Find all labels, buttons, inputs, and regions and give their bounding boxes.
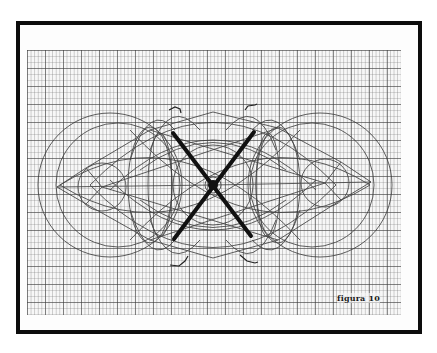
- figure-caption: figura 10: [337, 293, 380, 303]
- left-triangle: [57, 168, 102, 204]
- marker-top-left: [169, 107, 181, 113]
- center-node: [208, 180, 218, 190]
- marker-bottom-right: [240, 255, 258, 263]
- marker-top-right: [245, 104, 257, 110]
- right-outer-circle-inner: [250, 123, 374, 247]
- marker-bottom-left: [170, 256, 188, 266]
- left-outer-circle-inner: [56, 123, 180, 247]
